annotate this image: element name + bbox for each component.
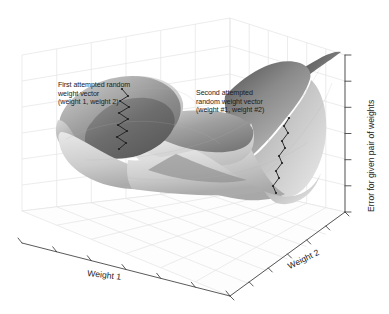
axis-label-error: Error for given pair of weights [366,100,376,212]
error-surface [56,52,341,204]
plot-canvas [0,0,389,314]
grid-floor [22,186,345,296]
figure-3d-error-surface: First attempted random weight vector (we… [0,0,389,314]
annotation-second-attempt: Second attempted random weight vector (w… [196,89,264,115]
annotation-first-attempt: First attempted random weight vector (we… [58,81,130,107]
axis-error-ticks [345,55,351,212]
